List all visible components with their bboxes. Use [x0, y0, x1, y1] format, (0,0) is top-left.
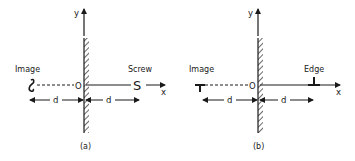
- left-distance-label: d: [227, 95, 232, 105]
- edge-dislocation-icon: [308, 77, 320, 85]
- x-axis-label: x: [161, 87, 166, 97]
- origin-label: O: [249, 81, 256, 91]
- panel-b: y O x Edge Image d d (b): [189, 8, 341, 151]
- image-label: Image: [189, 65, 214, 74]
- x-axis-label: x: [336, 87, 341, 97]
- right-distance-label: d: [281, 95, 286, 105]
- edge-label: Edge: [304, 65, 324, 74]
- left-distance-label: d: [53, 95, 58, 105]
- right-distance-label: d: [106, 95, 111, 105]
- panel-a: y O x S Screw Image d d (a): [15, 8, 166, 151]
- mirror-dislocation-diagram: y O x S Screw Image d d (a) y: [0, 0, 355, 161]
- screw-icon: S: [133, 78, 141, 93]
- screw-label: Screw: [128, 65, 153, 74]
- caption-b: (b): [253, 142, 264, 151]
- image-screw-icon: [29, 79, 34, 91]
- caption-a: (a): [80, 142, 91, 151]
- y-axis-label: y: [248, 8, 253, 18]
- image-dislocation-icon: [195, 85, 205, 92]
- origin-label: O: [75, 81, 82, 91]
- y-axis-label: y: [74, 8, 79, 18]
- image-label: Image: [15, 65, 40, 74]
